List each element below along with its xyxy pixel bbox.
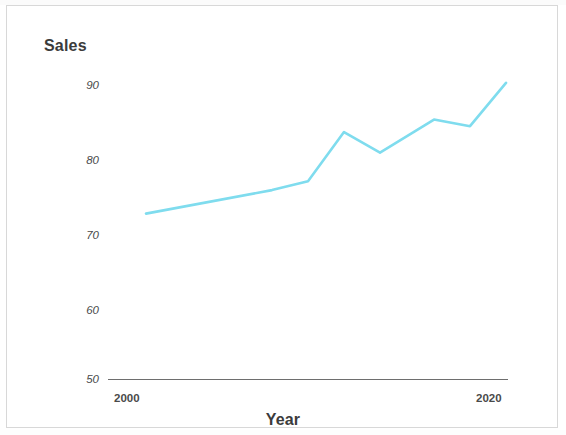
sales-line-path [146, 83, 506, 214]
chart-card: Sales 90 80 70 60 50 2000 2020 Year [6, 5, 558, 428]
sales-line-series [7, 6, 559, 429]
line-chart-plot-area: Sales 90 80 70 60 50 2000 2020 Year [7, 6, 559, 429]
x-axis-title: Year [7, 411, 559, 429]
card-bottom-edge [0, 430, 566, 435]
